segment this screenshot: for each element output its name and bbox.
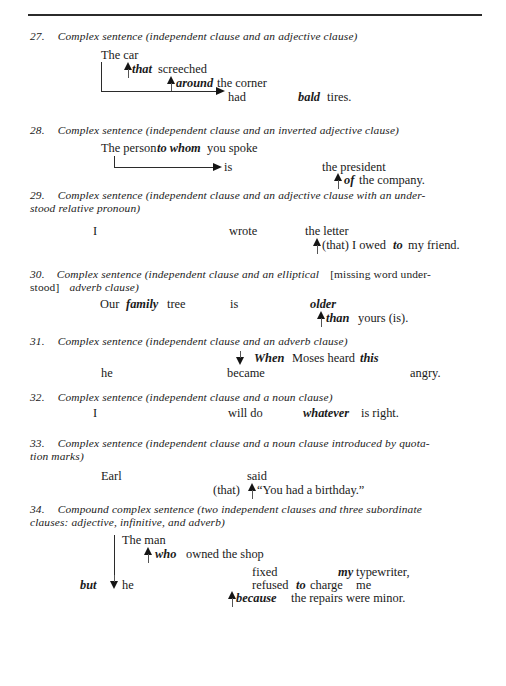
item-30-heading-part-a: Complex sentence (independent clause and… [57, 268, 319, 280]
item-34-word-he: he [122, 579, 134, 592]
item-27-heading-text: Complex sentence (independent clause and… [58, 30, 358, 42]
item-34-heading-line-2: clauses: adjective, infinitive, and adve… [30, 516, 225, 528]
item-29-heading-line-2: stood relative pronoun) [30, 202, 140, 214]
item-28-word-the-person: The person [101, 142, 156, 155]
item-31-word-became: became [227, 367, 265, 380]
up-arrow-icon [248, 483, 257, 499]
item-29-word-to: to [393, 239, 403, 252]
down-arrow-icon [110, 575, 119, 589]
item-34-heading: 34. Compound complex sentence (two indep… [30, 503, 482, 516]
item-31-number: 31. [30, 335, 45, 347]
item-33-word-said: said [247, 470, 267, 483]
item-33-heading-line-1: Complex sentence (independent clause and… [58, 437, 430, 449]
item-30-heading-part-d: adverb clause) [69, 281, 138, 293]
item-34-word-repairs: the repairs were minor. [291, 592, 405, 605]
down-arrow-icon [236, 351, 245, 365]
item-27-word-around: around [176, 77, 213, 90]
item-28-heading: 28. Complex sentence (independent clause… [30, 124, 480, 137]
item-30-word-older: older [310, 298, 336, 311]
item-29-word-i: I [93, 225, 97, 238]
item-34-word-because: because [236, 592, 277, 605]
item-30-heading-line-2-row: stood] adverb clause) [30, 281, 482, 294]
item-29-heading-line-2-row: stood relative pronoun) [30, 202, 482, 215]
item-29-heading: 29. Complex sentence (independent clause… [30, 189, 482, 202]
up-arrow-icon [167, 76, 176, 92]
item-28-word-is: is [224, 161, 232, 174]
item-34-word-who: who [155, 548, 176, 561]
item-32-heading-text: Complex sentence (independent clause and… [58, 391, 333, 403]
item-31-word-he: he [101, 367, 113, 380]
item-30-heading: 30. Complex sentence (independent clause… [30, 268, 482, 281]
item-30-number: 30. [30, 268, 45, 280]
item-31-word-this: this [360, 352, 379, 365]
item-32-heading: 32. Complex sentence (independent clause… [30, 391, 480, 404]
item-34-heading-line-2-row: clauses: adjective, infinitive, and adve… [30, 516, 482, 529]
item-29-heading-line-1: Complex sentence (independent clause and… [58, 189, 426, 201]
item-34-word-owned-the-shop: owned the shop [186, 548, 264, 561]
item-27-word-had: had [228, 91, 246, 104]
item-30-heading-bracket-b: stood] [30, 281, 59, 293]
up-arrow-icon [144, 547, 153, 563]
item-32-word-will-do: will do [228, 407, 263, 420]
item-27-word-that: that [132, 63, 152, 76]
item-29-word-my-friend: my friend. [408, 239, 460, 252]
item-29-word-wrote: wrote [229, 225, 257, 238]
item-34-word-the-man: The man [122, 534, 166, 547]
item-29-word-that-i-owed: (that) I owed [322, 239, 386, 252]
item-27-word-bald: bald [298, 91, 320, 104]
item-34-word-but: but [80, 579, 97, 592]
item-30-word-family: family [126, 298, 158, 311]
item-27-word-the-car: The car [101, 49, 139, 62]
item-32-number: 32. [30, 391, 45, 403]
item-27-word-tires: tires. [327, 91, 351, 104]
item-33-heading-line-2: tion marks) [30, 450, 84, 462]
item-33-word-that: (that) [213, 484, 240, 497]
item-27-heading: 27. Complex sentence (independent clause… [30, 30, 480, 43]
item-31-heading: 31. Complex sentence (independent clause… [30, 335, 480, 348]
item-31-heading-text: Complex sentence (independent clause and… [58, 335, 348, 347]
up-arrow-icon [334, 173, 343, 189]
item-33-heading-line-2-row: tion marks) [30, 450, 482, 463]
item-31-word-moses-heard: Moses heard [292, 352, 355, 365]
item-33-number: 33. [30, 437, 45, 449]
item-30-word-is: is [230, 298, 238, 311]
item-32-word-whatever: whatever [303, 407, 349, 420]
item-30-word-yours: yours (is). [358, 312, 408, 325]
item-27-word-screeched: screeched [158, 63, 207, 76]
item-31-word-when: When [254, 352, 284, 365]
item-34-heading-line-1: Compound complex sentence (two independe… [58, 503, 422, 515]
item-28-number: 28. [30, 124, 45, 136]
item-28-word-the-company: the company. [359, 174, 425, 187]
item-28-heading-text: Complex sentence (independent clause and… [58, 124, 399, 136]
page-top-rule [28, 14, 482, 16]
item-33-word-earl: Earl [101, 470, 122, 483]
item-32-word-is-right: is right. [361, 407, 399, 420]
item-33-heading: 33. Complex sentence (independent clause… [30, 437, 482, 450]
item-29-word-the-letter: the letter [305, 225, 349, 238]
item-27-number: 27. [30, 30, 45, 42]
up-arrow-icon [313, 238, 322, 254]
item-31-word-angry: angry. [410, 367, 441, 380]
up-arrow-icon [317, 311, 326, 327]
item-28-word-you-spoke: you spoke [207, 142, 258, 155]
item-32-word-i: I [93, 407, 97, 420]
textbook-page: 27. Complex sentence (independent clause… [0, 0, 506, 686]
item-28-word-of: of [344, 174, 354, 187]
item-33-word-quote: “You had a birthday.” [257, 484, 364, 497]
item-28-word-to-whom: to whom [157, 142, 201, 155]
item-30-word-than: than [326, 312, 349, 325]
item-30-word-our: Our [100, 298, 119, 311]
item-30-word-tree: tree [167, 298, 186, 311]
item-29-number: 29. [30, 189, 45, 201]
item-30-heading-bracket-a: [missing word under- [330, 268, 431, 280]
item-34-number: 34. [30, 503, 45, 515]
